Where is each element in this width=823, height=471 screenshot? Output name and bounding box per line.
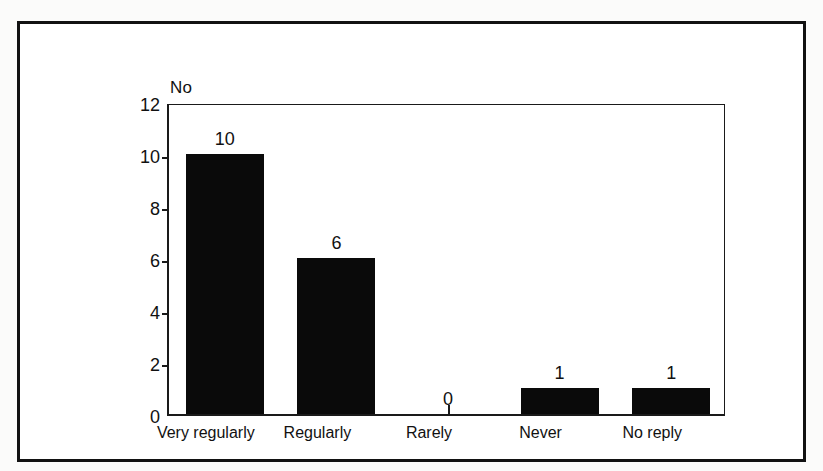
- plot-area: 024681012 106011: [167, 104, 725, 416]
- y-axis-tick-mark: [162, 365, 169, 367]
- y-axis-tick-mark: [162, 157, 169, 159]
- bar-value-label: 0: [443, 389, 453, 410]
- x-axis-category-label: Regularly: [284, 424, 352, 442]
- bar-value-label: 1: [555, 363, 565, 384]
- bar: [297, 258, 375, 414]
- y-axis-tick-mark: [162, 261, 169, 263]
- x-axis-category-label: Never: [519, 424, 562, 442]
- bar: [186, 154, 264, 414]
- bar-value-label: 10: [215, 129, 235, 150]
- figure-frame: No 024681012 106011 Very regularlyRegula…: [17, 21, 806, 462]
- y-axis-tick-label: 12: [140, 95, 169, 116]
- x-axis-category-label: Rarely: [406, 424, 452, 442]
- y-axis-unit-label: No: [170, 78, 192, 98]
- y-axis-tick-mark: [162, 313, 169, 315]
- y-axis-tick-mark: [162, 209, 169, 211]
- bar: [521, 388, 599, 414]
- bar: [632, 388, 710, 414]
- x-axis-category-label: No reply: [622, 424, 682, 442]
- bar-value-label: 6: [331, 233, 341, 254]
- page-background: No 024681012 106011 Very regularlyRegula…: [0, 0, 823, 471]
- x-axis-category-label: Very regularly: [157, 424, 255, 442]
- bar-value-label: 1: [666, 363, 676, 384]
